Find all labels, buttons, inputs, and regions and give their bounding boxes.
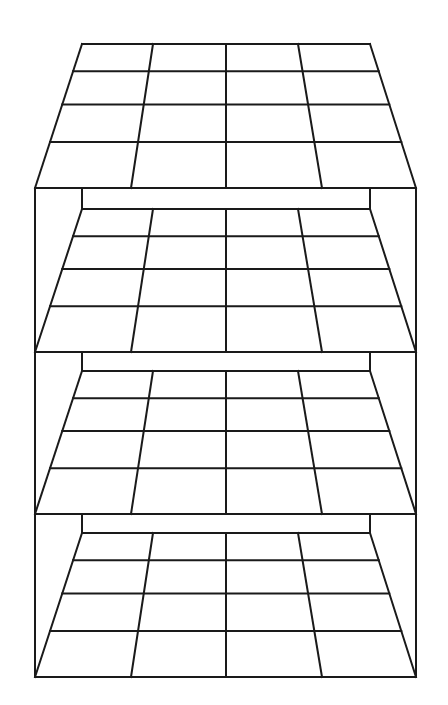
diagram-canvas: Stacked perspective grids (4x4 layers in… — [0, 0, 448, 705]
grid-left-edge — [35, 44, 82, 188]
grid-left-edge — [35, 209, 82, 352]
grid-right-edge — [370, 533, 416, 677]
grid-column-line — [131, 209, 153, 352]
grid-left-edge — [35, 533, 82, 677]
grid-column-line — [131, 533, 153, 677]
grid-column-line — [298, 209, 322, 352]
stacked-grid-drawing — [0, 0, 448, 705]
grid-right-edge — [370, 209, 416, 352]
grid-column-line — [298, 44, 322, 188]
grid-column-line — [298, 533, 322, 677]
grid-column-line — [298, 371, 322, 514]
grid-left-edge — [35, 371, 82, 514]
grid-right-edge — [370, 44, 416, 188]
grid-column-line — [131, 371, 153, 514]
grid-column-line — [131, 44, 153, 188]
grid-right-edge — [370, 371, 416, 514]
